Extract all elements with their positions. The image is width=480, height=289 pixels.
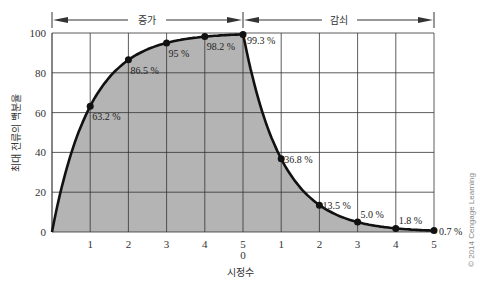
data-point (240, 31, 247, 38)
y-axis-label: 최대 전류의 백분율 (11, 94, 22, 172)
data-label: 63.2 % (92, 111, 120, 122)
y-tick-label: 20 (35, 186, 47, 198)
x-tick-label: 1 (278, 238, 284, 250)
x-tick-label: 3 (355, 238, 361, 250)
charge-discharge-chart: 63.2 %86.5 %95 %98.2 %99.3 %36.8 %13.5 %… (0, 0, 480, 289)
data-point (125, 56, 132, 63)
data-label: 1.8 % (399, 215, 422, 226)
data-label: 0.7 % (439, 226, 462, 237)
y-tick-label: 100 (30, 27, 47, 39)
y-tick-label: 60 (35, 107, 47, 119)
data-point (87, 103, 94, 110)
y-tick-label: 40 (35, 146, 47, 158)
x-tick-label: 5 (431, 238, 437, 250)
x-tick-label: 3 (164, 238, 170, 250)
x-tick-label: 1 (87, 238, 93, 250)
data-point (163, 39, 170, 46)
y-tick-label: 80 (35, 67, 47, 79)
x-tick-label: 4 (202, 238, 208, 250)
data-label: 99.3 % (247, 35, 275, 46)
x-tick-label: 2 (317, 238, 323, 250)
copyright-notice: © 2014 Cengage Learning (467, 173, 476, 267)
data-label: 95 % (169, 48, 190, 59)
data-label: 36.8 % (284, 154, 312, 165)
x-tick-label: 0 (240, 249, 246, 261)
data-point (431, 227, 438, 234)
data-label: 13.5 % (322, 200, 350, 211)
increase-region-arrow: 증가 (52, 12, 243, 28)
decay-label: 감쇠 (330, 15, 348, 26)
decay-region-arrow: 감쇠 (244, 12, 434, 28)
y-tick-label: 0 (41, 226, 47, 238)
data-label: 98.2 % (207, 41, 235, 52)
data-point (201, 33, 208, 40)
x-axis-label: 시정수 (227, 267, 254, 278)
data-label: 5.0 % (361, 209, 384, 220)
x-tick-label: 4 (393, 238, 399, 250)
x-tick-label: 2 (126, 238, 132, 250)
increase-label: 증가 (138, 15, 156, 26)
data-label: 86.5 % (130, 65, 158, 76)
